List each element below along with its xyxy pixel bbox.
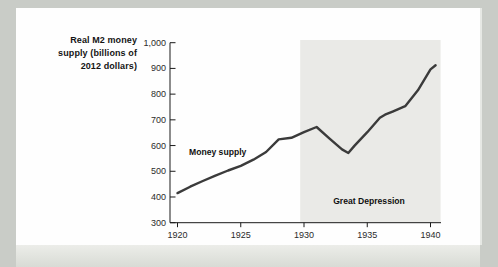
y-axis-tick-label: 500 bbox=[151, 166, 166, 176]
y-axis-tick-label: 900 bbox=[151, 63, 166, 73]
x-axis-tick-label: 1925 bbox=[231, 230, 251, 240]
figure-screenshot: Real M2 money supply (billions of 2012 d… bbox=[0, 0, 498, 267]
y-axis-tick-label: 400 bbox=[151, 192, 166, 202]
m2-money-supply-line-chart: 1,00090080070060050040030019201925193019… bbox=[0, 0, 498, 267]
y-axis-tick-label: 800 bbox=[151, 89, 166, 99]
chart-generated-layer: 1,00090080070060050040030019201925193019… bbox=[143, 38, 441, 240]
x-axis-tick-label: 1940 bbox=[420, 230, 440, 240]
x-axis-tick-label: 1930 bbox=[294, 230, 314, 240]
y-axis-tick-label: 700 bbox=[151, 115, 166, 125]
y-axis-tick-label: 600 bbox=[151, 141, 166, 151]
y-axis-tick-label: 1,000 bbox=[143, 38, 166, 48]
money-supply-line-label: Money supply bbox=[189, 147, 247, 157]
great-depression-region-label: Great Depression bbox=[333, 196, 405, 206]
x-axis-tick-label: 1920 bbox=[167, 230, 187, 240]
y-axis-tick-label: 300 bbox=[151, 218, 166, 228]
x-axis-tick-label: 1935 bbox=[357, 230, 377, 240]
